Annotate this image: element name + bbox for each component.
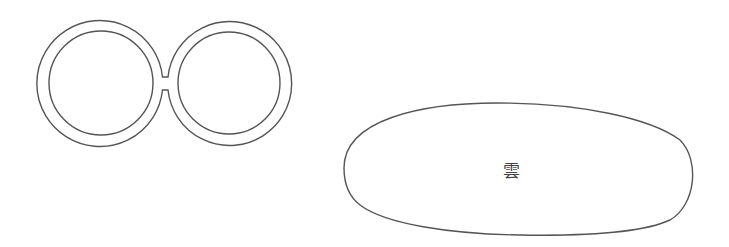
- glasses-shape: [37, 21, 292, 147]
- diagram-canvas: 雲: [0, 0, 729, 247]
- diagram-svg: [0, 0, 729, 247]
- cloud-label: 雲: [500, 159, 522, 183]
- right-lens-inner-ring: [178, 32, 280, 134]
- left-lens-inner-ring: [49, 31, 153, 135]
